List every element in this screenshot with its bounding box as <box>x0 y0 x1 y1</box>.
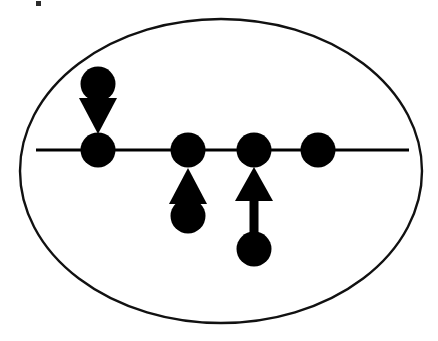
off-line-node-above-1 <box>81 67 116 102</box>
on-line-node-3 <box>237 133 272 168</box>
on-line-node-4 <box>301 133 336 168</box>
off-line-node-below-3 <box>237 232 272 267</box>
artifact-group <box>36 1 41 6</box>
off-line-node-below-2 <box>171 199 206 234</box>
on-line-node-1 <box>81 133 116 168</box>
on-line-node-2 <box>171 133 206 168</box>
figure-canvas <box>0 0 438 341</box>
scan-speck-top-left <box>36 1 41 6</box>
canvas-background <box>0 0 438 341</box>
diagram-svg <box>0 0 438 341</box>
